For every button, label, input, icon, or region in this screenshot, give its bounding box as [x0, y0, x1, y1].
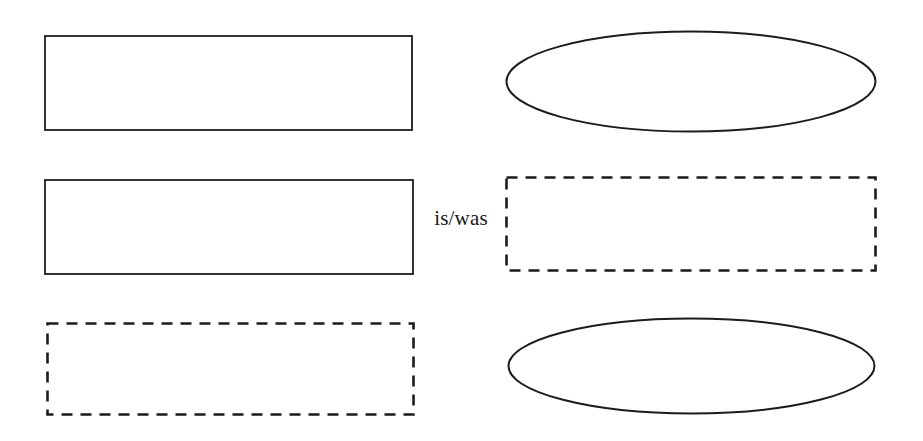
ellipse-outline-icon: [507, 317, 876, 415]
ellipse-outline-icon: [505, 30, 877, 133]
dashed-rectangle-outline-icon: [46, 322, 415, 416]
diagram-canvas: is/was: [0, 0, 923, 441]
dashed-rectangle-outline-icon: [505, 176, 877, 272]
rectangle-outline-icon: [44, 179, 414, 275]
dashed-rectangle-bottom-left: [46, 322, 415, 416]
rectangle-outline-icon: [44, 35, 413, 131]
dashed-rectangle-middle-right: [505, 176, 877, 272]
solid-rectangle-middle-left: [44, 179, 414, 275]
relation-label: is/was: [426, 206, 496, 231]
solid-ellipse-top-right: [505, 30, 877, 133]
solid-rectangle-top-left: [44, 35, 413, 131]
solid-ellipse-bottom-right: [507, 317, 876, 415]
